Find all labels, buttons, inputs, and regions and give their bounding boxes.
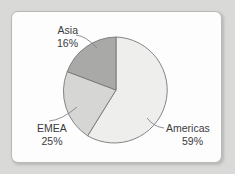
pie-label-emea-name: EMEA [37, 122, 67, 134]
pie-chart: Asia 16% EMEA 25% Americas 59% [0, 0, 235, 174]
pie-label-asia-name: Asia [58, 24, 79, 36]
figure-root: Asia 16% EMEA 25% Americas 59% [0, 0, 235, 174]
pie-label-emea-value: 25% [41, 135, 62, 147]
pie-label-asia-value: 16% [57, 37, 78, 49]
pie-label-americas-name: Americas [166, 122, 210, 134]
pie-label-americas-value: 59% [182, 135, 203, 147]
